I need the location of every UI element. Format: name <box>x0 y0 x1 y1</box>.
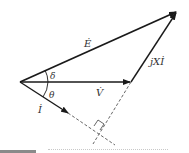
label-e: Ė <box>83 38 92 49</box>
label-delta: δ <box>50 71 55 81</box>
label-v: V̇ <box>96 87 105 98</box>
vector-i <box>20 82 68 113</box>
phasor-diagram: Ė V̇ İ jXİ δ θ <box>0 0 189 153</box>
angle-arc-theta <box>43 82 48 97</box>
label-theta: θ <box>49 90 55 100</box>
dashed-i-extension <box>68 113 115 145</box>
label-i: İ <box>37 104 43 115</box>
bottom-rule <box>0 150 36 153</box>
vector-e <box>20 12 176 82</box>
angle-arc-delta <box>45 70 48 82</box>
right-angle-marker <box>94 120 104 130</box>
bottom-caption-fragment <box>48 149 168 153</box>
label-jxi: jXİ <box>148 56 165 67</box>
vector-jxi <box>131 13 176 82</box>
